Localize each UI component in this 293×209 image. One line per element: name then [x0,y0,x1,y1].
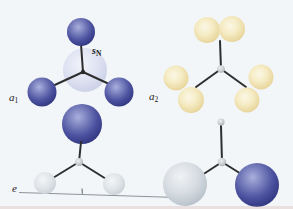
central-atom-node [218,158,226,166]
junction-dot [81,70,85,74]
yellow-orbital-sphere [178,87,204,113]
large-silver-orbital-sphere [163,162,207,206]
salc-e-right [163,119,279,208]
blue-orbital-sphere [67,18,95,46]
salc-a1 [28,18,134,107]
central-atom-node [217,65,225,73]
bonds [196,41,246,87]
label-a1: a1 [9,92,18,104]
yellow-orbital-sphere [219,16,245,42]
label-sN-sub: N [96,49,101,58]
bonds [199,126,246,177]
small-gray-orbital-sphere [34,172,56,194]
orbital-diagram-canvas [0,0,293,209]
central-atom-node [75,158,83,166]
salc-a2 [164,16,274,113]
salc-e-left [34,104,125,195]
scan-edge-tint [0,206,293,209]
blue-orbital-sphere [105,78,134,107]
label-a2-sub: 2 [155,95,159,104]
label-a1-sub: 1 [15,96,19,105]
small-node-sphere [218,119,225,126]
large-blue-orbital-sphere [235,163,279,207]
label-e: e [12,183,17,195]
orbital-salc-figure: sN a1 a2 e [0,0,293,209]
large-blue-orbital-sphere [62,104,102,144]
label-sN: sN [92,45,101,57]
label-e-base: e [12,182,17,194]
yellow-orbital-sphere [194,17,220,43]
yellow-orbital-sphere [164,66,189,91]
yellow-orbital-sphere [235,88,260,113]
blue-orbital-sphere [28,78,57,107]
label-a2: a2 [149,91,158,103]
small-gray-orbital-sphere [103,173,125,195]
yellow-orbital-sphere [249,65,274,90]
